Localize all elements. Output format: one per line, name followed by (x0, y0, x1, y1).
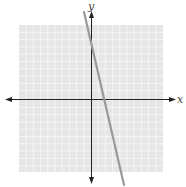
x-axis-label: x (177, 93, 183, 106)
x-axis-left-arrow-icon (5, 97, 12, 102)
x-axis-right-arrow-icon (169, 97, 176, 102)
y-axis-label: y (88, 0, 94, 13)
y-axis-down-arrow-icon (89, 177, 94, 184)
coordinate-plane (0, 0, 186, 187)
